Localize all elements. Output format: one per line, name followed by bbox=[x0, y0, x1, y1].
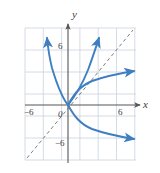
x-tick-label-positive: 6 bbox=[118, 108, 123, 117]
graph-figure: x y 6 −6 6 −6 0 bbox=[0, 0, 160, 173]
origin-label: 0 bbox=[58, 110, 63, 119]
x-tick-label-negative: −6 bbox=[24, 108, 34, 117]
y-tick-label-positive: 6 bbox=[58, 42, 63, 51]
coordinate-plane-svg bbox=[0, 0, 160, 173]
y-tick-label-negative: −6 bbox=[55, 139, 65, 148]
y-axis-label: y bbox=[72, 9, 77, 20]
x-axis-label: x bbox=[143, 99, 148, 110]
